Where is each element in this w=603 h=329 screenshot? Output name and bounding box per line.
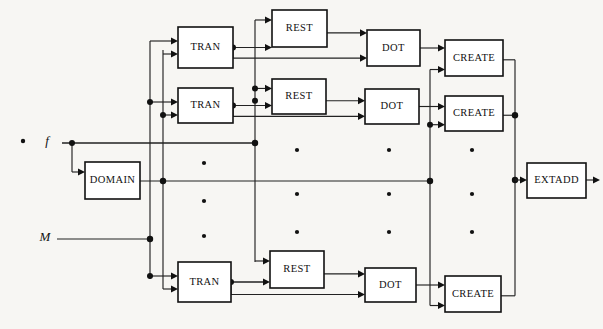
ellipsis-rest-dot-3 <box>295 230 299 234</box>
ellipsis-tran-dot-2 <box>202 199 206 203</box>
arrow-domain-tran-3 <box>171 285 178 292</box>
ellipsis-dot-dot-1 <box>387 148 391 152</box>
ellipsis-create-dot-1 <box>470 148 474 152</box>
bullet-dot-f <box>21 139 25 143</box>
block-dot-2[interactable]: DOT <box>365 89 419 124</box>
arrow-tran-bypass-dot-2 <box>358 113 365 120</box>
block-tran-n[interactable]: TRAN <box>178 262 231 302</box>
arrow-dot-create-3 <box>438 281 445 288</box>
ellipsis-create-dot-3 <box>470 230 474 234</box>
arrow-crbus-create-3 <box>438 302 445 309</box>
junction-createbus-2 <box>427 122 433 128</box>
block-dot-1[interactable]: DOT <box>367 30 420 66</box>
block-label-extadd: EXTADD <box>534 174 579 185</box>
arrow-dot-create-2 <box>438 103 445 110</box>
arrow-rest-dot-3 <box>358 270 365 277</box>
ellipsis-tran-dot-1 <box>202 161 206 165</box>
arrow-rest-dot-2 <box>358 97 365 104</box>
arrow-m-tran-3 <box>171 272 178 279</box>
block-diagram-canvas: TRANTRANTRANRESTRESTRESTDOTDOTDOTCREATEC… <box>0 0 603 329</box>
junction-m-tranN <box>147 273 153 279</box>
block-tran-1[interactable]: TRAN <box>178 27 233 68</box>
block-label-rest-2: REST <box>285 90 312 101</box>
arrow-tran-rest-2 <box>265 102 272 109</box>
arrow-extadd-output <box>593 176 600 183</box>
junction-domain-createbus <box>427 178 433 184</box>
block-label-dot-2: DOT <box>381 100 404 111</box>
arrow-domain-tran-1 <box>171 50 178 57</box>
block-label-tran-2: TRAN <box>190 99 220 110</box>
junction-domain-tran2 <box>160 112 166 118</box>
block-create-2[interactable]: CREATE <box>445 96 503 131</box>
block-label-tran-1: TRAN <box>190 41 220 52</box>
block-label-create-2: CREATE <box>453 107 495 118</box>
block-label-dot-1: DOT <box>382 42 405 53</box>
junction-f-restbus <box>252 140 258 146</box>
block-label-tran-n: TRAN <box>189 276 219 287</box>
arrow-m-tran-1 <box>171 37 178 44</box>
junction-domain-tranbus <box>160 178 166 184</box>
block-rest-1[interactable]: REST <box>272 10 327 47</box>
ellipsis-dot-dot-2 <box>387 192 391 196</box>
arrow-tran-bypass-dot-3 <box>358 291 365 298</box>
ellipsis-dot-dot-3 <box>387 230 391 234</box>
arrow-crbus-create-2 <box>438 121 445 128</box>
arrow-restbus-rest-3 <box>263 257 270 264</box>
block-tran-2[interactable]: TRAN <box>178 88 233 123</box>
block-rest-2[interactable]: REST <box>272 79 326 114</box>
junction-restbus-2 <box>252 85 258 91</box>
block-label-rest-1: REST <box>286 22 313 33</box>
ellipsis-rest-dot-1 <box>295 148 299 152</box>
block-create-1[interactable]: CREATE <box>445 40 503 76</box>
arrow-tran-rest-3 <box>263 278 270 285</box>
block-domain[interactable]: DOMAIN <box>85 162 140 199</box>
block-extadd[interactable]: EXTADD <box>527 163 586 198</box>
arrow-crbus-create-1 <box>438 66 445 73</box>
block-label-domain: DOMAIN <box>90 174 136 185</box>
wire-tran-bypass-1 <box>233 48 361 59</box>
arrow-tran-rest-1 <box>265 44 272 51</box>
arrow-restbus-rest-2 <box>265 85 272 92</box>
arrow-restbus-rest-1 <box>265 16 272 23</box>
arrow-domain-tran-2 <box>171 111 178 118</box>
block-rest-n[interactable]: REST <box>270 251 324 288</box>
junction-createout-2 <box>512 112 518 118</box>
arrow-extadd-in <box>520 176 527 183</box>
arrow-m-tran-2 <box>171 98 178 105</box>
arrow-dot-create-1 <box>438 44 445 51</box>
junction-m <box>147 236 153 242</box>
block-create-n[interactable]: CREATE <box>445 276 501 312</box>
arrow-rest-dot-1 <box>360 29 367 36</box>
input-label-M: M <box>39 229 52 244</box>
ellipsis-tran-dot-3 <box>202 234 206 238</box>
arrow-tran-bypass-dot-1 <box>360 54 367 61</box>
input-label-f: f <box>45 133 51 148</box>
block-label-rest-n: REST <box>283 263 310 274</box>
arrow-f-domain-head <box>78 168 85 175</box>
block-label-create-1: CREATE <box>453 52 495 63</box>
ellipsis-rest-dot-2 <box>295 192 299 196</box>
block-label-create-n: CREATE <box>452 288 494 299</box>
ellipsis-create-dot-2 <box>470 192 474 196</box>
junction-m-tran2 <box>147 99 153 105</box>
block-label-dot-n: DOT <box>379 279 402 290</box>
junction-f <box>69 140 75 146</box>
block-dot-n[interactable]: DOT <box>365 268 416 302</box>
block-diagram-svg: TRANTRANTRANRESTRESTRESTDOTDOTDOTCREATEC… <box>0 0 603 329</box>
junction-restbus-2b <box>252 98 258 104</box>
